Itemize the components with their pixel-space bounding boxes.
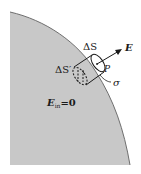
label-delta-s: ΔS: [83, 41, 97, 52]
label-point-p: P: [103, 64, 111, 74]
label-delta-s-prime: ΔS′: [55, 64, 72, 75]
field-arrow-icon: [97, 49, 122, 64]
label-e-inside-value: =0: [60, 97, 75, 108]
label-field-e: E: [124, 42, 133, 53]
conductor-region: [10, 12, 130, 165]
label-e-inside: Ein=0: [46, 97, 76, 109]
label-sigma: σ: [113, 77, 121, 88]
gauss-diagram: ΔS ΔS′ E P σ Ein=0: [0, 0, 141, 174]
